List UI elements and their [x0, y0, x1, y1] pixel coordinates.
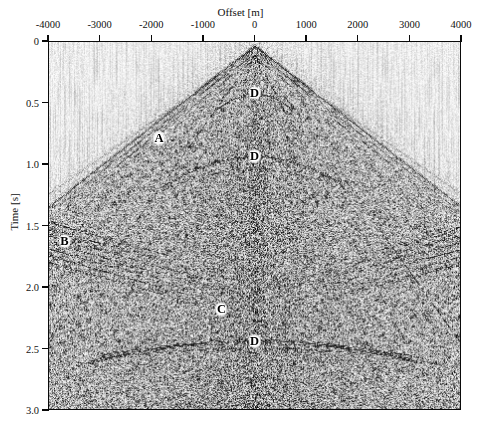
x-tick-label: -2000: [139, 19, 164, 30]
y-tick-label: 2.0: [0, 282, 39, 293]
y-tick-label: 0.5: [0, 97, 39, 108]
annotation-label-d-5: D: [248, 334, 261, 349]
x-tick-label: 2000: [347, 19, 368, 30]
annotation-label-d-4: D: [248, 149, 261, 164]
x-axis-title: Offset [m]: [0, 6, 481, 18]
annotation-label-b-1: B: [58, 234, 70, 249]
x-tick-label: -3000: [87, 19, 112, 30]
x-tick-label: 1000: [296, 19, 317, 30]
x-tick-label: 3000: [399, 19, 420, 30]
x-tick-label: 0: [252, 19, 257, 30]
seismic-figure: Offset [m] Time [s] -4000-3000-2000-1000…: [0, 0, 481, 432]
annotation-label-c-2: C: [215, 302, 228, 317]
y-tick-label: 2.5: [0, 343, 39, 354]
y-axis-title: Time [s]: [8, 172, 20, 252]
x-tick-label: -4000: [36, 19, 61, 30]
y-tick-label: 0: [0, 36, 39, 47]
y-tick-label: 1.0: [0, 159, 39, 170]
x-tick-label: 4000: [451, 19, 472, 30]
x-tick-label: -1000: [191, 19, 216, 30]
y-tick-label: 3.0: [0, 405, 39, 416]
annotation-label-d-3: D: [248, 85, 261, 100]
y-tick-label: 1.5: [0, 220, 39, 231]
annotation-label-a-0: A: [152, 131, 165, 146]
